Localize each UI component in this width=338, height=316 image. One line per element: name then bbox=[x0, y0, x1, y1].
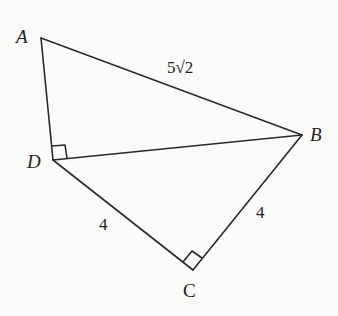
segment-DC bbox=[53, 160, 193, 270]
segment-CB bbox=[193, 135, 302, 270]
vertex-label-B: B bbox=[310, 124, 322, 145]
vertex-label-D: D bbox=[26, 151, 41, 172]
segment-AB bbox=[41, 38, 302, 135]
side-label-DC: 4 bbox=[99, 215, 108, 234]
segment-AD bbox=[41, 38, 53, 160]
side-label-CB: 4 bbox=[256, 203, 265, 222]
side-label-AB: 5√2 bbox=[167, 58, 193, 77]
right-angle-marker-D bbox=[52, 145, 67, 158]
vertex-label-C: C bbox=[183, 280, 196, 301]
vertex-label-A: A bbox=[14, 26, 28, 47]
quadrilateral-diagram: A B C D 5√2 4 4 bbox=[0, 0, 338, 316]
geometry-figure: A B C D 5√2 4 4 bbox=[0, 0, 338, 316]
segment-DB bbox=[53, 135, 302, 160]
right-angle-marker-C bbox=[183, 251, 202, 262]
